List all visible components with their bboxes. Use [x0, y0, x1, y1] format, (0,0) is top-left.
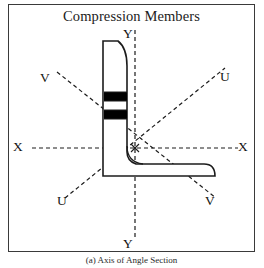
- axis-label-u-upper-right: U: [220, 70, 230, 84]
- axis-vv-line: [57, 72, 216, 198]
- axis-label-x-left: X: [13, 140, 23, 154]
- axis-label-x-right: X: [238, 140, 248, 154]
- figure-caption: (a) Axis of Angle Section: [8, 255, 255, 266]
- axis-label-y-top: Y: [123, 27, 133, 41]
- axis-label-v-upper-left: V: [40, 71, 50, 85]
- axis-label-y-bottom: Y: [123, 237, 133, 251]
- band-lower: [104, 110, 127, 119]
- axis-label-v-lower-right: V: [205, 194, 215, 208]
- angle-section-outline: [103, 41, 215, 176]
- angle-section-diagram: [8, 4, 255, 252]
- figure-root: Compression Members Y Y X: [0, 0, 264, 268]
- axis-label-u-lower-left: U: [57, 194, 67, 208]
- axis-uu-line: [65, 68, 225, 198]
- band-upper: [104, 92, 127, 101]
